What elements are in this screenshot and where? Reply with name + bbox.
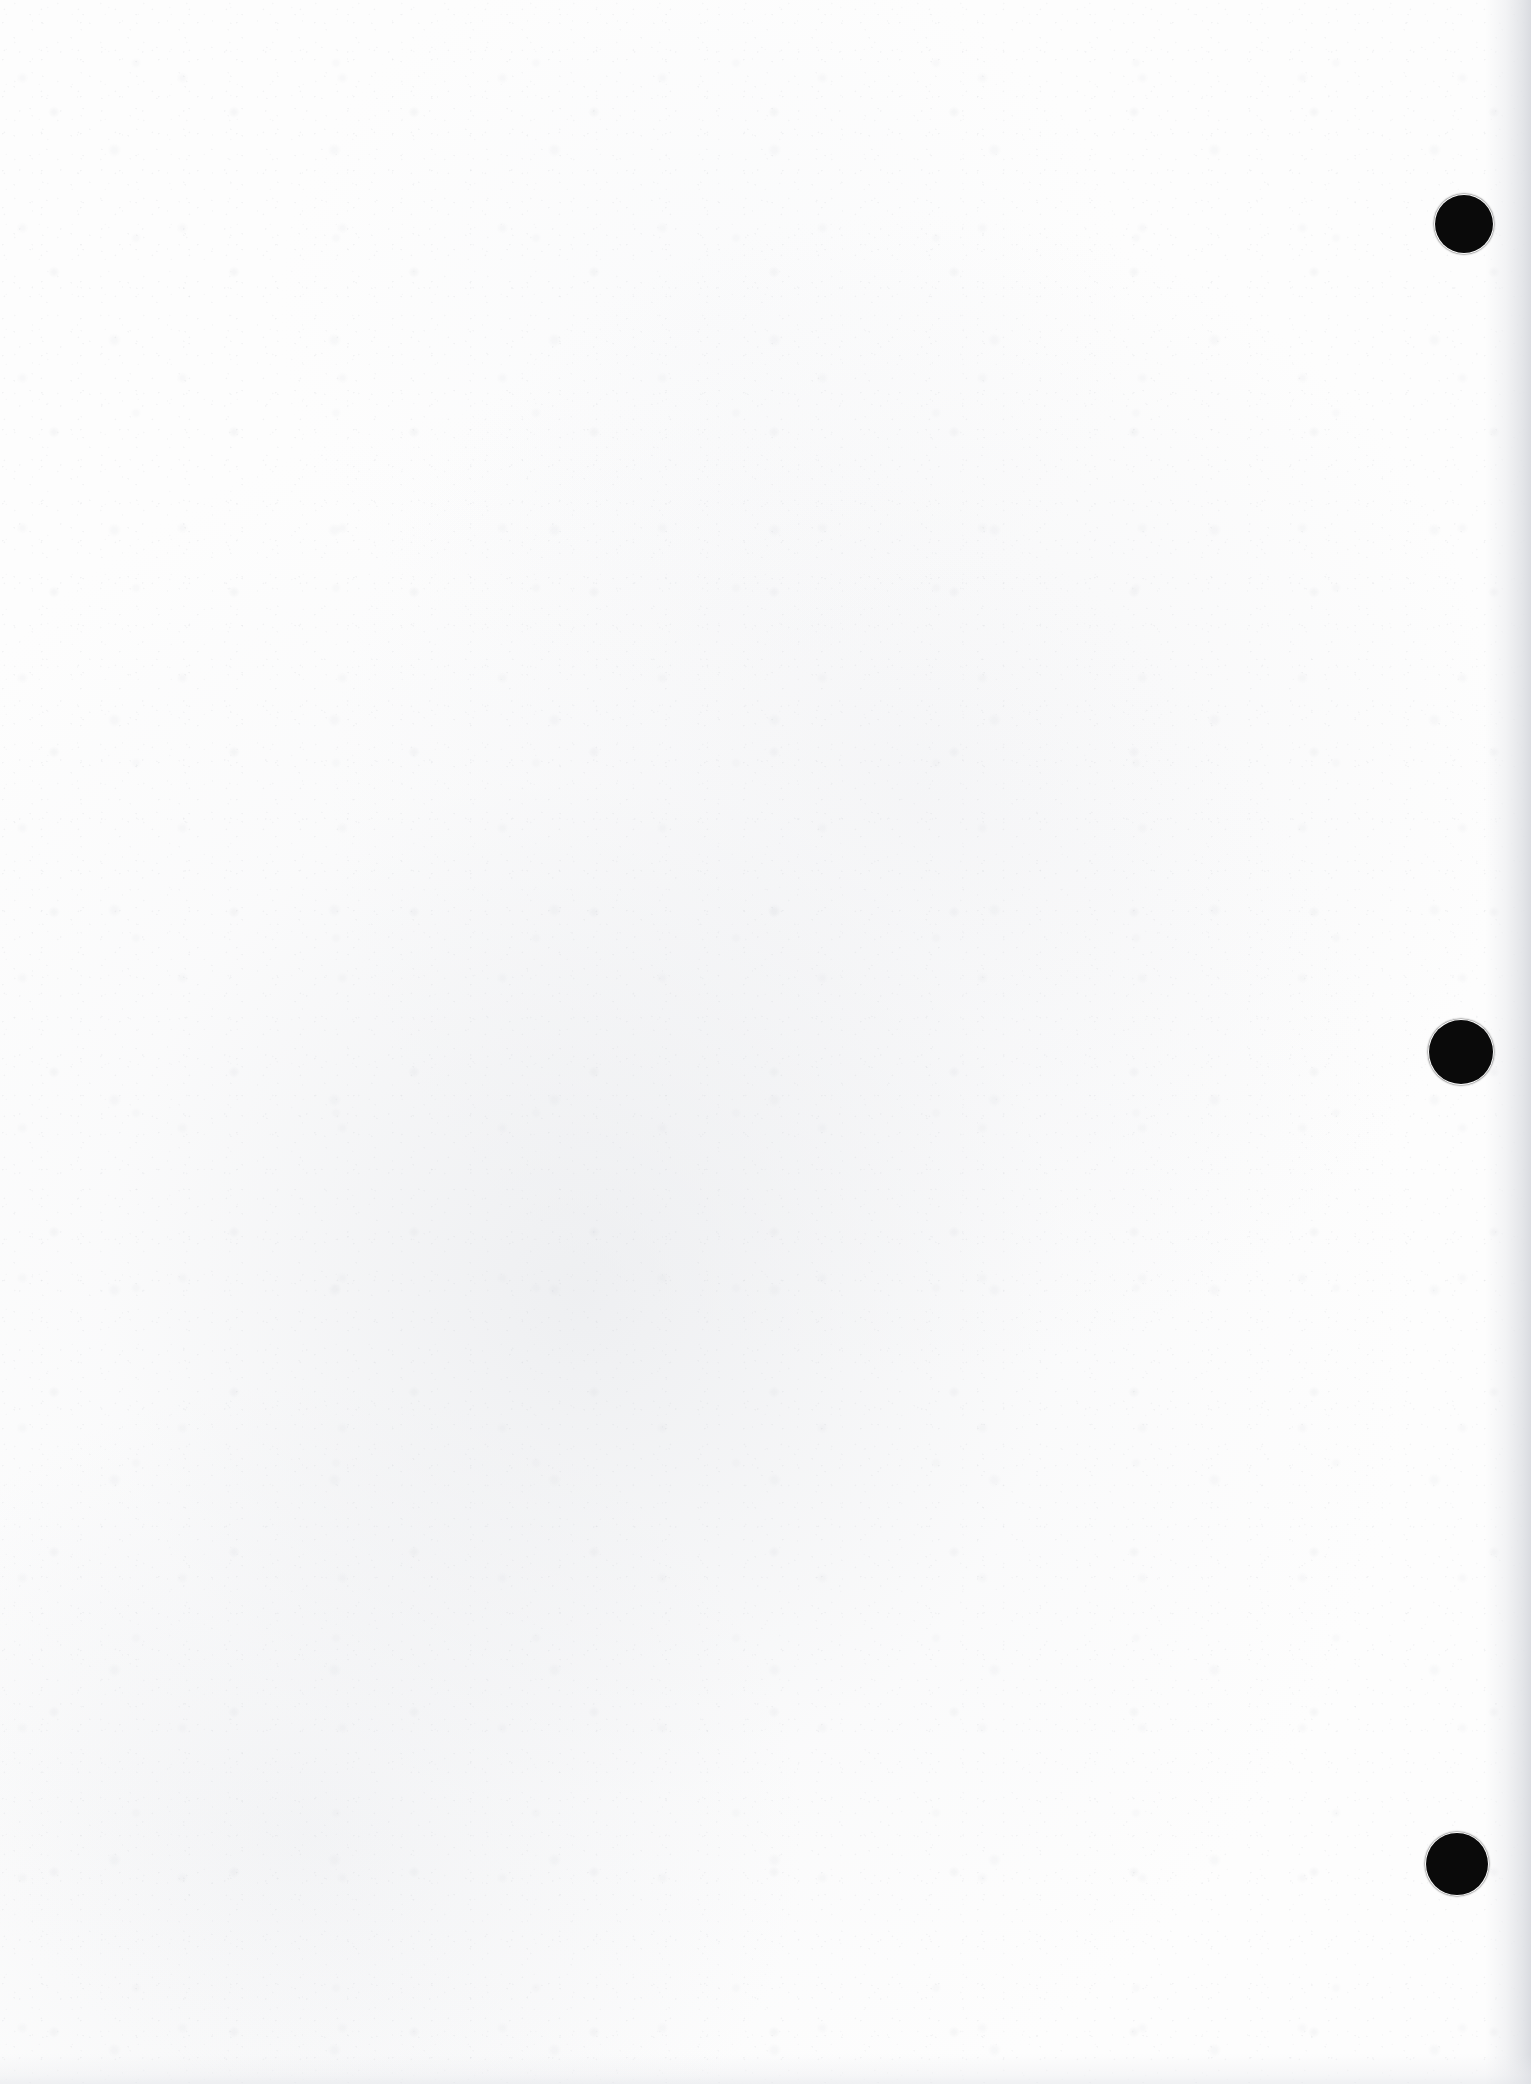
punch-hole-icon xyxy=(1426,1833,1488,1895)
paper-background xyxy=(0,0,1531,2084)
punch-hole-icon xyxy=(1435,195,1493,253)
punch-hole-icon xyxy=(1429,1020,1493,1084)
scanned-page xyxy=(0,0,1531,2084)
